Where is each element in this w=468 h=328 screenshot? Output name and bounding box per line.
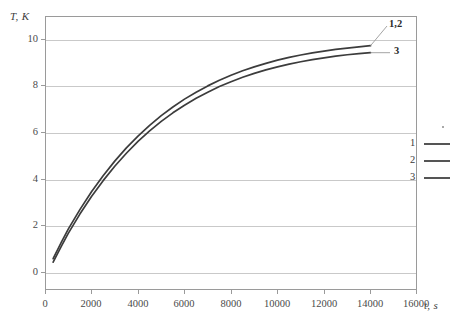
y-tick-label: 4 [8, 173, 38, 184]
y-tick-label: 0 [8, 266, 38, 277]
legend-line-swatch [424, 177, 450, 179]
annotation-leader-line [371, 26, 388, 46]
y-tick-label: 10 [8, 33, 38, 44]
y-tick-label: 8 [8, 79, 38, 90]
legend-item-label: 2 [410, 154, 415, 165]
x-tick-mark [277, 290, 278, 294]
stray-dot-mark [442, 126, 444, 128]
data-curves [45, 16, 417, 290]
x-tick-mark [231, 290, 232, 294]
x-tick-mark [370, 290, 371, 294]
series-line-1-2 [53, 46, 370, 259]
chart-figure: T, K t, s 10 8 6 4 2 0 0 2000 4000 6000 … [0, 0, 468, 328]
annotation-curve-3: 3 [394, 45, 399, 56]
x-tick-label: 12000 [299, 298, 349, 309]
legend-item-label: 1 [410, 137, 415, 148]
annotation-curves-1-2: 1,2 [389, 18, 402, 29]
x-tick-label: 6000 [159, 298, 209, 309]
legend-line-swatch [424, 160, 450, 162]
legend-item-label: 3 [410, 171, 415, 182]
y-tick-label: 6 [8, 126, 38, 137]
x-tick-mark [416, 290, 417, 294]
x-tick-label: 4000 [113, 298, 163, 309]
legend-item: 2 [410, 153, 466, 170]
x-tick-mark [324, 290, 325, 294]
y-axis-title: T, K [10, 10, 29, 22]
x-tick-label: 10000 [252, 298, 302, 309]
x-tick-label: 14000 [345, 298, 395, 309]
x-tick-mark [45, 290, 46, 294]
x-tick-mark [184, 290, 185, 294]
x-tick-label: 8000 [206, 298, 256, 309]
x-tick-mark [138, 290, 139, 294]
y-tick-label: 2 [8, 219, 38, 230]
legend-item: 3 [410, 170, 466, 187]
legend: 1 2 3 [410, 136, 466, 187]
legend-item: 1 [410, 136, 466, 153]
x-tick-mark [91, 290, 92, 294]
x-tick-label: 16000 [391, 298, 441, 309]
legend-line-swatch [424, 143, 450, 145]
x-tick-label: 2000 [66, 298, 116, 309]
x-tick-label: 0 [20, 298, 70, 309]
